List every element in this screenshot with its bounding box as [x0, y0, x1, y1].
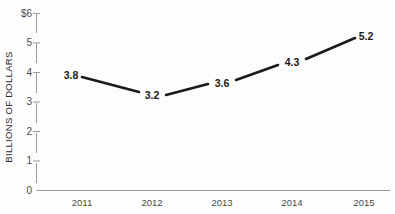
point-label-2015: 5.2 [359, 30, 374, 42]
point-label-2013: 3.6 [215, 77, 230, 89]
x-tick-label-2014: 2014 [281, 197, 302, 208]
plot-area [0, 0, 395, 214]
y-axis [33, 13, 40, 190]
x-tick-label-2011: 2011 [72, 197, 92, 208]
x-tick-label-2012: 2012 [141, 197, 162, 208]
line-chart: BILLIONS OF DOLLARS $6 5 4 3 2 1 0 [0, 0, 395, 214]
x-tick-label-2013: 2013 [211, 197, 232, 208]
point-label-2014: 4.3 [285, 56, 300, 68]
point-label-2011: 3.8 [64, 69, 79, 81]
point-label-2012: 3.2 [145, 89, 160, 101]
x-tick-label-2015: 2015 [353, 197, 374, 208]
